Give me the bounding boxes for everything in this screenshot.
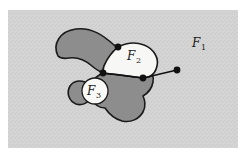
- label-f2-subscript: 2: [136, 56, 141, 65]
- dot-left: [100, 70, 107, 77]
- label-f3-subscript: 3: [96, 91, 101, 100]
- dot-middle: [140, 75, 147, 82]
- dot-right: [174, 67, 181, 74]
- dot-top: [115, 44, 122, 51]
- label-f3-base: F: [86, 84, 96, 98]
- label-f1-base: F: [191, 36, 201, 50]
- figure-container: F 1 F 2 F 3: [0, 0, 247, 161]
- nested-regions-diagram: F 1 F 2 F 3: [0, 0, 247, 161]
- label-f2-base: F: [126, 49, 136, 63]
- label-f1-subscript: 1: [201, 43, 206, 52]
